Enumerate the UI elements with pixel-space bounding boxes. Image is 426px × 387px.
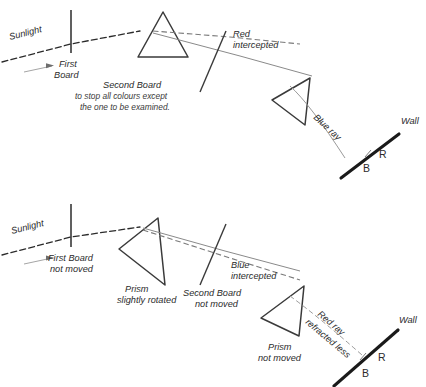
red-intercepted-label-line2-top: intercepted <box>233 40 279 50</box>
mark-r-top: R <box>379 148 387 160</box>
second-board-top <box>200 31 226 92</box>
wall-label-bottom: Wall <box>399 315 418 325</box>
mark-b-bottom: B <box>362 367 369 379</box>
sunlight-arrow-head-top <box>46 63 54 68</box>
prism-not-moved-label-line1: Prism <box>268 342 292 352</box>
prism-not-moved-label-line2: not moved <box>258 353 302 363</box>
top-panel: Sunlight First Board Red intercepted Sec… <box>2 10 420 178</box>
first-board-label-line2-bottom: not moved <box>50 264 94 274</box>
prism-2-bottom <box>261 286 304 336</box>
mark-b-top: B <box>363 162 370 174</box>
prism-rotated-label-line1: Prism <box>125 284 149 294</box>
blue-intercepted-label-line1: Blue <box>231 260 249 270</box>
bottom-panel: Sunlight First Board not moved Prism sli… <box>2 204 418 386</box>
wall-label-top: Wall <box>401 116 420 126</box>
blue-ray-label-top: Blue ray <box>312 112 344 143</box>
diagram-canvas: Sunlight First Board Red intercepted Sec… <box>0 0 426 387</box>
mark-r-bottom: R <box>378 351 386 363</box>
prism-1-top <box>138 12 188 57</box>
first-board-label-line2-top: Board <box>54 70 79 80</box>
prism-rotated-label-line2: slightly rotated <box>117 295 177 305</box>
first-board-label-line1-bottom: First Board <box>48 253 94 263</box>
second-board-label-line1-bottom: Second Board <box>183 288 242 298</box>
red-intercepted-label-line1-top: Red <box>233 29 251 39</box>
second-board-label-line2-top: to stop all colours except <box>75 91 168 101</box>
prism-dispersion-diagram: Sunlight First Board Red intercepted Sec… <box>0 0 426 387</box>
second-board-label-line1-top: Second Board <box>103 80 162 90</box>
second-board-label-line3-top: the one to be examined. <box>80 102 170 112</box>
second-board-bottom <box>200 224 226 285</box>
prism-1-rotated-bottom <box>119 218 165 285</box>
blue-intercepted-label-line2: intercepted <box>231 271 277 281</box>
sunlight-label-top: Sunlight <box>8 24 43 42</box>
sunlight-label-bottom: Sunlight <box>10 218 45 236</box>
second-board-label-line2-bottom: not moved <box>195 299 239 309</box>
first-board-label-line1-top: First <box>59 59 77 69</box>
